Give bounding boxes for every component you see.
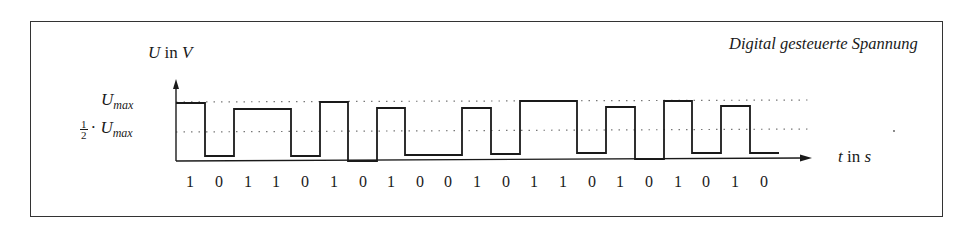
bit-label: 0	[295, 173, 315, 191]
bit-label: 1	[467, 173, 487, 191]
bit-label: 1	[725, 173, 745, 191]
bit-label: 0	[754, 173, 774, 191]
bit-label: 0	[639, 173, 659, 191]
half-umax-label: 12· Umax	[80, 118, 133, 141]
umax-reference-line	[176, 100, 812, 102]
x-axis	[176, 158, 802, 161]
bit-label: 1	[381, 173, 401, 191]
bit-label: 0	[209, 173, 229, 191]
bit-label: 1	[610, 173, 630, 191]
y-axis-label: U in V	[148, 43, 192, 63]
x-axis-arrow-icon	[800, 155, 812, 162]
bit-label: 1	[553, 173, 573, 191]
bit-label: 1	[180, 173, 200, 191]
bit-label: 1	[324, 173, 344, 191]
bit-label: 0	[582, 173, 602, 191]
bit-label: 0	[438, 173, 458, 191]
y-axis-arrow-icon	[173, 79, 179, 89]
stray-dot	[893, 130, 895, 132]
bit-label: 1	[266, 173, 286, 191]
bit-label: 0	[410, 173, 430, 191]
bit-label: 1	[238, 173, 258, 191]
bit-label: 0	[496, 173, 516, 191]
half-umax-reference-line	[176, 129, 812, 132]
x-axis-label: t in s	[838, 147, 871, 167]
bit-label: 1	[524, 173, 544, 191]
bit-label: 0	[353, 173, 373, 191]
diagram-title: Digital gesteuerte Spannung	[729, 34, 918, 54]
umax-label: Umax	[101, 90, 133, 113]
bit-label: 1	[668, 173, 688, 191]
bit-label: 0	[696, 173, 716, 191]
fraction: 12	[80, 119, 88, 140]
